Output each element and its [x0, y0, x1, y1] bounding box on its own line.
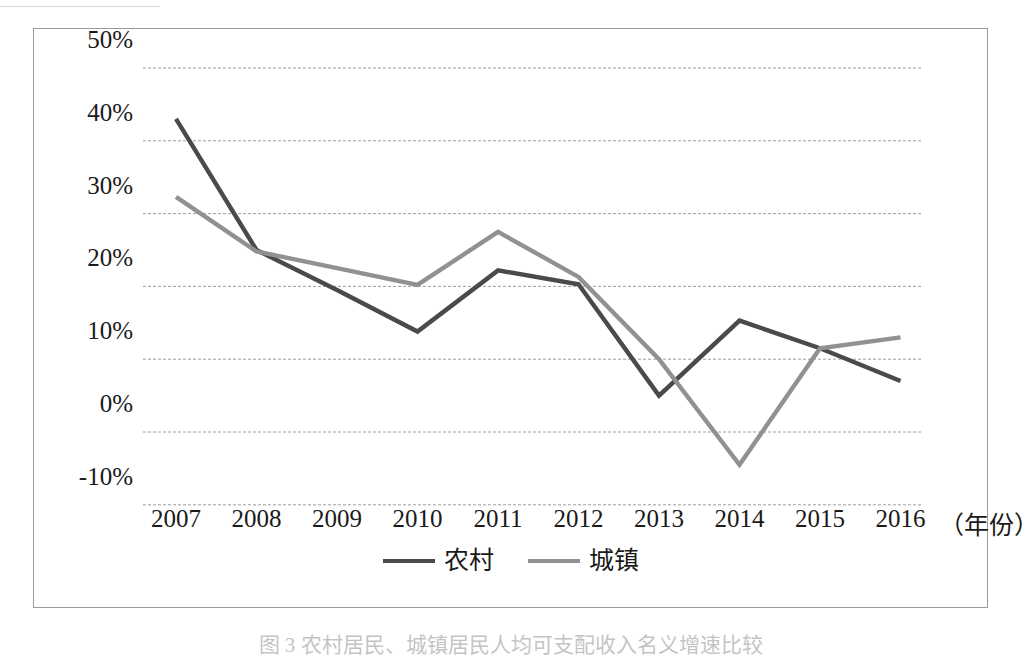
- x-tick-label: 2015: [795, 505, 845, 533]
- y-tick-label: 40%: [87, 99, 133, 127]
- x-axis-tick-labels: 2007200820092010201120122013201420152016…: [0, 505, 1021, 545]
- legend-item-农村[interactable]: 农村: [383, 548, 494, 573]
- y-tick-label: 30%: [87, 172, 133, 200]
- x-tick-label: 2010: [393, 505, 443, 533]
- y-tick-label: 50%: [87, 26, 133, 54]
- figure-caption: 图 3 农村居民、城镇居民人均可支配收入名义增速比较: [0, 628, 1021, 658]
- y-tick-label: 20%: [87, 244, 133, 272]
- legend-label: 城镇: [589, 548, 639, 573]
- legend-label: 农村: [444, 548, 494, 573]
- x-tick-label: 2012: [554, 505, 604, 533]
- x-tick-label: 2007: [151, 505, 201, 533]
- legend-line-swatch-icon: [528, 559, 580, 563]
- y-axis-tick-labels: 50%40%30%20%10%0%-10%: [0, 0, 133, 580]
- x-tick-label: 2014: [715, 505, 765, 533]
- y-tick-label: 0%: [100, 390, 133, 418]
- legend-item-城镇[interactable]: 城镇: [528, 548, 639, 573]
- series-line-城镇: [176, 197, 901, 465]
- y-tick-label: 10%: [87, 317, 133, 345]
- x-axis-unit-label: （年份）: [939, 505, 1027, 541]
- x-tick-label: 2011: [473, 505, 522, 533]
- chart-legend: 农村城镇: [0, 548, 1021, 573]
- legend-line-swatch-icon: [383, 559, 435, 563]
- y-tick-label: -10%: [79, 463, 133, 491]
- x-tick-label: 2008: [232, 505, 282, 533]
- x-tick-label: 2013: [634, 505, 684, 533]
- x-tick-label: 2016: [876, 505, 926, 533]
- x-tick-label: 2009: [312, 505, 362, 533]
